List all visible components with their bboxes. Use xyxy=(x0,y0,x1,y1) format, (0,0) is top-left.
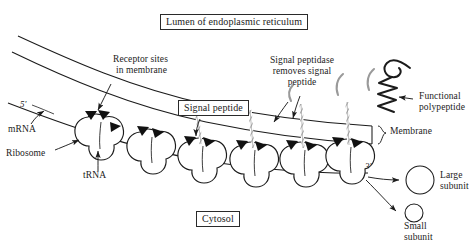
ribosome-2 xyxy=(127,129,176,174)
membrane-brace xyxy=(378,126,386,144)
leader-large-subunit xyxy=(368,177,399,180)
ribosome-1 xyxy=(75,114,124,160)
receptor-sites-label-line1: Receptor sites xyxy=(113,54,168,65)
leader-signal-peptidase-a xyxy=(293,96,300,118)
signal-peptide-diagram: Lumen of endoplasmic reticulum Receptor … xyxy=(0,0,471,248)
lumen-label: Lumen of endoplasmic reticulum xyxy=(160,14,308,30)
receptor-sites-label-line2: in membrane xyxy=(116,65,167,76)
signal-peptidase-label-line2: removes signal xyxy=(256,66,348,77)
small-subunit-label-line1: Small xyxy=(404,221,427,232)
large-subunit-label-line1: Large xyxy=(440,170,462,181)
cytosol-label: Cytosol xyxy=(196,211,240,227)
growing-polypeptide-6 xyxy=(347,102,349,145)
leader-small-subunit xyxy=(366,180,396,211)
membrane-label: Membrane xyxy=(390,126,432,137)
leader-functional-polypeptide xyxy=(399,97,413,99)
ribosome-3 xyxy=(178,138,227,183)
signal-peptidase-label-line3: peptide xyxy=(256,77,348,88)
small-subunit-circle xyxy=(405,204,423,222)
ribosome-label: Ribosome xyxy=(6,148,45,159)
mrna-label: mRNA xyxy=(8,124,36,135)
functional-polypeptide-label-line1: Functional xyxy=(419,91,461,102)
leader-signal-peptidase-b xyxy=(274,102,288,122)
ribosome-4 xyxy=(230,142,279,187)
three-prime-label: 3' xyxy=(365,161,372,171)
large-subunit-circle xyxy=(406,166,434,194)
large-subunit-label-line2: subunit xyxy=(440,181,469,192)
leader-ribosome xyxy=(55,140,79,150)
leader-five-prime xyxy=(32,105,54,114)
small-subunit-label-line2: subunit xyxy=(404,232,433,243)
functional-polypeptide-coil xyxy=(378,60,410,112)
leader-receptor-sites xyxy=(98,84,111,110)
trna-label: tRNA xyxy=(83,170,106,181)
growing-polypeptide-5 xyxy=(301,104,303,148)
functional-polypeptide-label-line2: polypeptide xyxy=(419,102,465,113)
signal-peptide-label: Signal peptide xyxy=(178,100,249,116)
five-prime-label: 5' xyxy=(20,99,27,109)
ribosome-5 xyxy=(280,142,329,187)
signal-peptidase-label-line1: Signal peptidase xyxy=(256,55,348,66)
